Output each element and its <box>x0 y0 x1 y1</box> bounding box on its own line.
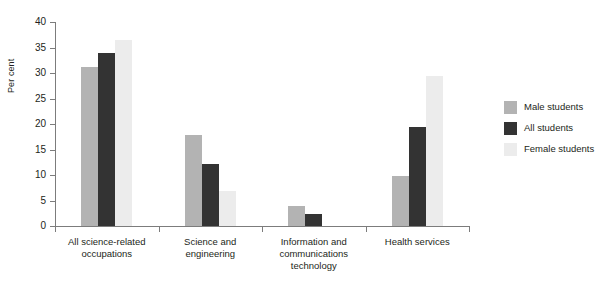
bar <box>392 176 409 226</box>
y-axis-tick-label: 20 <box>20 119 46 129</box>
bar-group <box>55 22 159 226</box>
y-axis-tick-label: 5 <box>20 196 46 206</box>
bar-group <box>366 22 470 226</box>
y-axis-tick-label: 10 <box>20 170 46 180</box>
bar <box>202 164 219 226</box>
bar <box>409 127 426 226</box>
bar-group <box>159 22 263 226</box>
x-axis-separator <box>366 226 367 232</box>
bar <box>98 53 115 226</box>
x-axis-separator <box>55 226 56 232</box>
legend-item-label: Male students <box>524 100 583 113</box>
y-axis-tick-label: 0 <box>20 221 46 231</box>
legend-item-label: All students <box>524 121 573 134</box>
legend-item-label: Female students <box>524 142 594 155</box>
x-axis-separator <box>159 226 160 232</box>
bar <box>81 67 98 226</box>
bar-chart: Per cent 0510152025303540 All science-re… <box>0 0 610 288</box>
x-axis-category-label: Health services <box>358 236 478 248</box>
bar <box>219 191 236 226</box>
y-axis-tick-label: 15 <box>20 145 46 155</box>
y-axis-tick-label: 35 <box>20 43 46 53</box>
x-axis-separator <box>262 226 263 232</box>
y-axis-tick-label: 40 <box>20 17 46 27</box>
bar <box>115 40 132 226</box>
y-axis-title: Per cent <box>6 23 16 93</box>
x-axis-category-label: All science-relatedoccupations <box>47 236 167 260</box>
plot-area <box>55 22 469 226</box>
bar <box>426 76 443 226</box>
legend-swatch-icon <box>504 143 517 156</box>
legend-swatch-icon <box>504 122 517 135</box>
x-axis-category-label: Information andcommunicationstechnology <box>254 236 374 272</box>
legend-swatch-icon <box>504 101 517 114</box>
bar-group <box>262 22 366 226</box>
bar <box>185 135 202 226</box>
y-axis-tick-label: 25 <box>20 94 46 104</box>
y-axis-tick-label: 30 <box>20 68 46 78</box>
x-axis-separator <box>469 226 470 232</box>
bar <box>288 206 305 226</box>
bar <box>305 214 322 226</box>
x-axis-category-label: Science andengineering <box>151 236 271 260</box>
